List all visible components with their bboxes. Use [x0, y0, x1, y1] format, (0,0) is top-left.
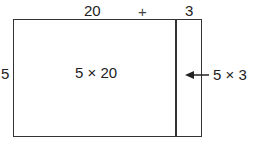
small-region-label: 5 × 3 [213, 67, 247, 82]
